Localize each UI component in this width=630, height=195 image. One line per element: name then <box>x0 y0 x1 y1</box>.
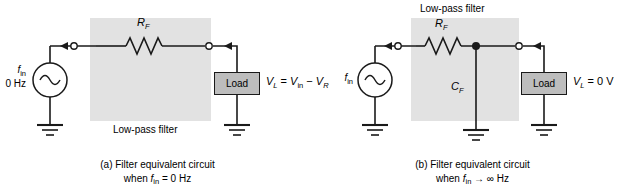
caption-b-line1: (b) Filter equivalent circuit <box>315 158 630 172</box>
ground-symbol-load-a <box>224 125 250 135</box>
capacitor-label-b: CF <box>451 80 464 92</box>
input-terminal-node-a <box>71 43 77 49</box>
caption-b: (b) Filter equivalent circuit when fin →… <box>315 158 630 185</box>
load-box-b: Load <box>521 72 567 95</box>
input-terminal-node-b <box>395 43 401 49</box>
source-frequency-a: 0 Hz <box>0 78 26 89</box>
output-current-arrow-a <box>224 42 232 50</box>
source-label-a: fin <box>0 64 26 75</box>
ground-symbol-capacitor-b <box>463 130 489 140</box>
ground-symbol-source-b <box>362 125 388 135</box>
filter-label-b: Low-pass filter <box>420 3 484 14</box>
wire-to-load-a <box>213 46 237 72</box>
caption-b-line2: when fin → ∞ Hz <box>315 172 630 186</box>
input-current-arrow-a <box>60 42 68 50</box>
output-current-arrow-b <box>533 42 541 50</box>
panel-a-filter-equivalent-dc: RF fin 0 Hz Low-pass filter Load VL = Vi… <box>0 0 315 195</box>
filter-region-box-a <box>90 18 211 121</box>
resistor-label-b: RF <box>435 17 448 29</box>
caption-a-line2: when fin = 0 Hz <box>0 172 315 186</box>
caption-a-line1: (a) Filter equivalent circuit <box>0 158 315 172</box>
caption-a: (a) Filter equivalent circuit when fin =… <box>0 158 315 185</box>
output-terminal-node-a <box>206 43 212 49</box>
resistor-label-a: RF <box>137 16 150 28</box>
filter-label-a: Low-pass filter <box>113 124 177 135</box>
filter-region-box-b <box>411 18 519 121</box>
panel-b-filter-equivalent-hf: Low-pass filter RF CF fin Load VL = 0 V … <box>315 0 630 195</box>
load-box-a: Load <box>214 72 260 95</box>
ground-symbol-source-a <box>37 125 63 135</box>
output-terminal-node-b <box>516 43 522 49</box>
ground-symbol-load-b <box>531 125 557 135</box>
source-label-b: fin <box>327 72 353 83</box>
output-voltage-equation-b: VL = 0 V <box>573 75 614 87</box>
input-current-arrow-b <box>384 42 392 50</box>
figure-root: RF fin 0 Hz Low-pass filter Load VL = Vi… <box>0 0 630 195</box>
